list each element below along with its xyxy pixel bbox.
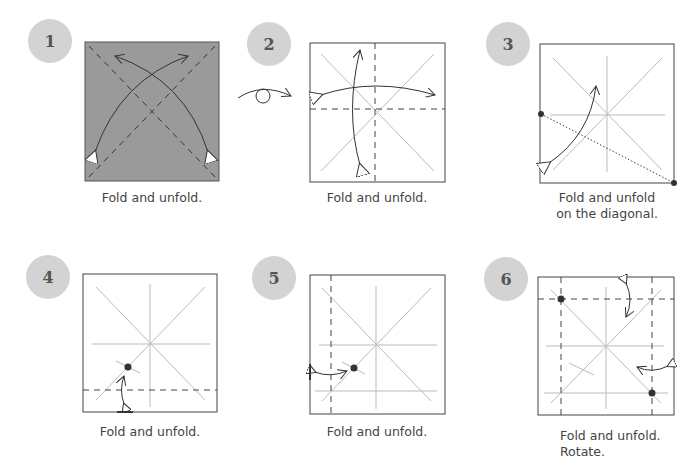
caption-line: Fold and unfold. xyxy=(92,190,212,206)
reference-point-dot xyxy=(538,111,544,117)
reference-point-dot xyxy=(351,365,358,372)
turn-over-icon xyxy=(238,89,291,103)
step-3-diagram xyxy=(538,44,677,186)
reference-point-dot xyxy=(558,296,565,303)
caption-line: Fold and unfold xyxy=(547,190,667,206)
step-4-diagram xyxy=(83,274,217,412)
step-6-caption: Fold and unfold. Rotate. xyxy=(560,428,680,460)
step-5-caption: Fold and unfold. xyxy=(317,424,437,440)
step-2-diagram xyxy=(310,43,445,182)
origami-diagrams xyxy=(0,0,699,468)
step-6-diagram xyxy=(538,277,674,415)
caption-line: on the diagonal. xyxy=(547,206,667,222)
step-1-diagram xyxy=(85,42,219,181)
step-3-caption: Fold and unfold on the diagonal. xyxy=(547,190,667,222)
step-5-diagram xyxy=(310,275,445,414)
reference-point-dot xyxy=(649,390,656,397)
caption-line: Rotate. xyxy=(560,444,680,460)
reference-point-dot xyxy=(125,364,132,371)
step-1-caption: Fold and unfold. xyxy=(92,190,212,206)
step-2-caption: Fold and unfold. xyxy=(317,190,437,206)
caption-line: Fold and unfold. xyxy=(560,428,680,444)
caption-line: Fold and unfold. xyxy=(90,424,210,440)
caption-line: Fold and unfold. xyxy=(317,424,437,440)
caption-line: Fold and unfold. xyxy=(317,190,437,206)
reference-point-dot xyxy=(671,180,677,186)
step-4-caption: Fold and unfold. xyxy=(90,424,210,440)
